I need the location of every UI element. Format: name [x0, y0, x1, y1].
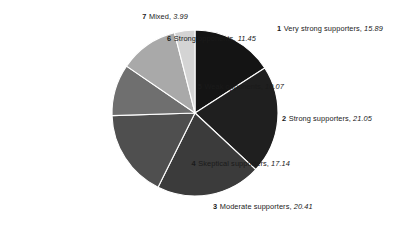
pie-chart: 1Very strong supporters, 15.892Strong su…: [0, 0, 406, 234]
pie-label-index: 6: [167, 34, 171, 43]
pie-label-3: 3Moderate supporters, 20.41: [213, 203, 313, 212]
pie-label-index: 4: [192, 159, 196, 168]
pie-label-value: 10.07: [265, 82, 284, 91]
pie-label-index: 2: [282, 114, 286, 123]
pie-label-index: 3: [213, 202, 217, 211]
pie-label-2: 2Strong supporters, 21.05: [282, 115, 372, 124]
pie-label-value: 20.41: [294, 202, 313, 211]
pie-label-name: Weak opponents,: [204, 82, 265, 91]
pie-label-name: Mixed,: [149, 12, 173, 21]
pie-label-7: 7Mixed, 3.99: [142, 13, 188, 22]
pie-label-name: Strong opponents,: [174, 34, 238, 43]
pie-label-name: Strong supporters,: [289, 114, 353, 123]
pie-label-index: 1: [277, 24, 281, 33]
pie-label-name: Very strong supporters,: [284, 24, 364, 33]
pie-label-5: 5Weak opponents, 10.07: [198, 83, 284, 92]
pie-label-value: 11.45: [238, 34, 256, 43]
pie-label-1: 1Very strong supporters, 15.89: [277, 25, 383, 34]
pie-label-value: 17.14: [271, 159, 290, 168]
pie-label-index: 5: [198, 82, 202, 91]
pie-label-value: 15.89: [364, 24, 383, 33]
pie-label-name: Moderate supporters,: [220, 202, 294, 211]
pie-label-6: 6Strong opponents, 11.45: [167, 35, 256, 44]
pie-label-value: 3.99: [173, 12, 188, 21]
pie-label-name: Skeptical supporters,: [198, 159, 271, 168]
pie-label-4: 4Skeptical supporters, 17.14: [192, 160, 290, 169]
pie-label-value: 21.05: [353, 114, 372, 123]
pie-label-index: 7: [142, 12, 146, 21]
